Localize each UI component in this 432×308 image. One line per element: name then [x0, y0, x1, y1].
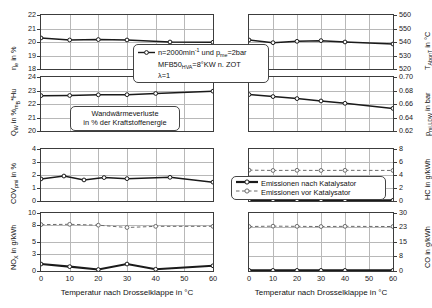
ytick-mark: [394, 175, 397, 176]
wall-heat-annotation: Wandwärmeverluste in % der Kraftstoffene…: [70, 106, 180, 131]
ytick-label: 24: [8, 73, 36, 80]
data-point-marker: [295, 224, 299, 228]
ytick-mark: [394, 213, 397, 214]
ytick-mark: [37, 15, 40, 16]
ytick-label: 23: [399, 223, 425, 230]
ytick-label: 550: [399, 25, 425, 32]
ytick-mark: [394, 271, 397, 272]
data-point-marker: [343, 40, 347, 44]
ytick-mark: [37, 188, 40, 189]
data-point-marker: [68, 94, 72, 98]
xtick-label: 20: [286, 275, 308, 282]
ytick-label: 22: [8, 11, 36, 18]
ytick-label: 21: [8, 114, 36, 121]
dashed-line-marker-icon: [236, 187, 258, 197]
ytick-label: 8: [8, 221, 36, 228]
data-point-marker: [295, 97, 299, 101]
ytick-mark: [394, 69, 397, 70]
data-point-marker: [68, 222, 72, 226]
ytick-mark: [37, 225, 40, 226]
series-group-pmi-ldw: [249, 77, 393, 131]
ytick-mark: [394, 256, 397, 257]
ylabel-co: CO in g/kWh: [424, 226, 431, 268]
ytick-mark: [394, 188, 397, 189]
ytick-mark: [394, 149, 397, 150]
ytick-mark: [37, 201, 40, 202]
data-point-marker: [249, 269, 251, 271]
ytick-mark: [37, 242, 40, 243]
series-group-nox: [41, 213, 213, 271]
xlabel-left: Temperatur nach Drosselklappe in °C: [40, 288, 214, 297]
data-point-marker: [211, 89, 213, 93]
ytick-mark: [394, 42, 397, 43]
ytick-label: 20: [8, 127, 36, 134]
data-point-marker: [41, 36, 43, 40]
data-point-marker: [391, 269, 393, 271]
ylabel-nox: NOX in g/kWh: [10, 225, 20, 270]
data-point-marker: [271, 224, 275, 228]
data-point-marker: [41, 223, 43, 227]
data-point-marker: [249, 93, 251, 97]
ytick-mark: [37, 91, 40, 92]
ytick-mark: [37, 175, 40, 176]
data-point-marker: [62, 174, 66, 178]
data-point-marker: [319, 269, 323, 271]
ytick-label: 30: [399, 209, 425, 216]
data-point-marker: [319, 99, 323, 103]
ytick-mark: [37, 162, 40, 163]
data-point-marker: [125, 38, 129, 42]
ytick-label: 3: [8, 158, 36, 165]
ytick-label: 6: [399, 158, 425, 165]
xtick-label: 50: [358, 275, 380, 282]
conditions-annotation: n=2000min-1 und pme=2bar MFB50HVA=8°KW n…: [133, 44, 269, 83]
panel-cov-pmi: [40, 148, 214, 202]
ytick-label: 8: [399, 145, 425, 152]
series-group-t-abgnt: [249, 15, 393, 69]
data-point-marker: [211, 180, 213, 184]
data-point-marker: [271, 41, 275, 45]
ytick-label: 4: [8, 145, 36, 152]
wall-heat-line-2: in % der Kraftstoffenergie: [75, 118, 175, 127]
data-point-marker: [125, 262, 129, 266]
ytick-label: 0.62: [399, 127, 425, 134]
line-marker-icon: [138, 49, 155, 58]
data-point-marker: [154, 267, 158, 271]
data-point-marker: [68, 38, 72, 42]
panel-pmi-ldw: [248, 76, 394, 132]
ytick-mark: [37, 56, 40, 57]
ytick-label: 2: [8, 171, 36, 178]
ylabel-hc: HC in g/kWh: [424, 159, 431, 200]
data-point-marker: [96, 93, 100, 97]
figure-root: ηe in % QW in %mB*Hu COVpmi in % NOX in …: [0, 0, 432, 308]
ytick-label: 3: [8, 250, 36, 257]
ytick-mark: [37, 29, 40, 30]
data-point-marker: [154, 92, 158, 96]
data-point-marker: [391, 106, 393, 110]
panel-t-abgnt: [248, 14, 394, 70]
data-point-marker: [343, 269, 347, 271]
data-point-marker: [343, 224, 347, 228]
ytick-label: 560: [399, 11, 425, 18]
xtick-label: 50: [173, 275, 195, 282]
ytick-mark: [394, 242, 397, 243]
xtick-label: 0: [30, 275, 52, 282]
ytick-mark: [394, 77, 397, 78]
ytick-mark: [394, 201, 397, 202]
ytick-mark: [37, 213, 40, 214]
series-group-cov-pmi: [41, 149, 213, 201]
xtick-label: 10: [59, 275, 81, 282]
conditions-line-2: MFB50HVA=8°KW n. ZOT: [138, 60, 263, 71]
ytick-label: 0: [8, 197, 36, 204]
data-point-marker: [41, 94, 43, 98]
ytick-label: 1: [8, 184, 36, 191]
xtick-label: 10: [262, 275, 284, 282]
data-point-marker: [319, 169, 323, 173]
ytick-label: 15: [399, 238, 425, 245]
wall-heat-line-1: Wandwärmeverluste: [75, 109, 175, 118]
ytick-label: 22: [8, 100, 36, 107]
ytick-label: 20: [8, 38, 36, 45]
xtick-label: 20: [87, 275, 109, 282]
data-point-marker: [154, 224, 158, 228]
xtick-label: 40: [334, 275, 356, 282]
data-point-marker: [319, 225, 323, 229]
